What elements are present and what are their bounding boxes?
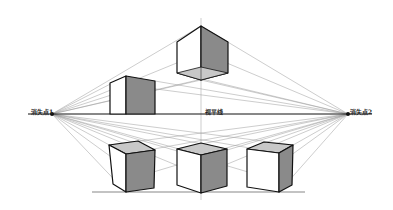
bottom-left-cube-left-face [109, 145, 126, 192]
horizon-line-label: 视平线 [205, 107, 223, 116]
left-box-left-face [110, 76, 126, 114]
bottom-center-cube-right-face [201, 149, 227, 193]
bottom-left-cube-right-face [126, 150, 155, 192]
bottom-right-cube-left-face [247, 149, 279, 192]
bottom-right-cube [247, 142, 293, 192]
bottom-left-cube [109, 141, 155, 192]
left-box-right-face [126, 76, 155, 114]
bottom-center-cube [177, 143, 227, 193]
bottom-right-cube-right-face [279, 145, 293, 192]
two-point-perspective-diagram [0, 0, 393, 210]
bottom-center-cube-left-face [177, 149, 201, 193]
top-cube [177, 26, 228, 80]
left-box [110, 76, 155, 114]
vanishing-point-1-label: 消失点1 [31, 107, 53, 116]
vanishing-point-2-label: 消失点2 [350, 107, 372, 116]
